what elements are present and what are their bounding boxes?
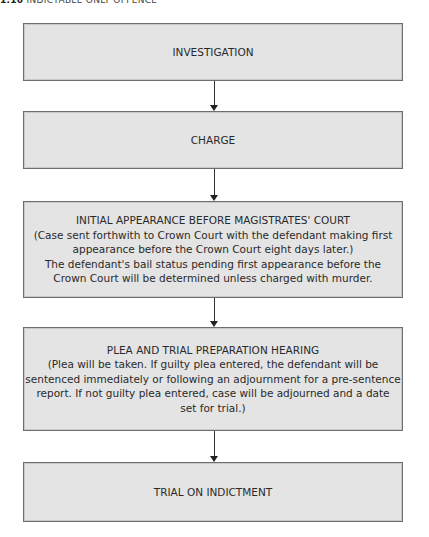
step-title: TRIAL ON INDICTMENT — [154, 485, 272, 500]
figure-title: INDICTABLE ONLY OFFENCE — [27, 0, 158, 5]
connector-line — [214, 169, 215, 195]
step-detail-line: report. If not guilty plea entered, case… — [36, 386, 389, 401]
figure-caption: 1.10 INDICTABLE ONLY OFFENCE — [0, 0, 157, 5]
figure-number: 1.10 — [0, 0, 23, 5]
step-detail-line: Crown Court will be determined unless ch… — [53, 271, 372, 286]
connector-line — [214, 81, 215, 105]
step-detail-line: The defendant's bail status pending firs… — [45, 257, 381, 272]
step-detail-line: sentenced immediately or following an ad… — [25, 372, 400, 387]
step-detail-line: (Case sent forthwith to Crown Court with… — [34, 228, 393, 243]
step-title: INVESTIGATION — [172, 45, 253, 60]
connector-line — [214, 298, 215, 321]
step-initial-appearance: INITIAL APPEARANCE BEFORE MAGISTRATES' C… — [23, 201, 403, 298]
step-plea-and-trial-preparation: PLEA AND TRIAL PREPARATION HEARING (Plea… — [23, 327, 403, 431]
step-title: INITIAL APPEARANCE BEFORE MAGISTRATES' C… — [76, 213, 350, 228]
step-title: CHARGE — [191, 133, 235, 148]
step-detail-line: (Plea will be taken. If guilty plea ente… — [48, 357, 379, 372]
step-detail-line: set for trial.) — [180, 401, 245, 416]
connector-line — [214, 431, 215, 456]
step-trial-on-indictment: TRIAL ON INDICTMENT — [23, 462, 403, 522]
step-title: PLEA AND TRIAL PREPARATION HEARING — [107, 343, 319, 358]
step-detail-line: appearance before the Crown Court eight … — [73, 242, 354, 257]
step-investigation: INVESTIGATION — [23, 23, 403, 81]
step-charge: CHARGE — [23, 111, 403, 169]
